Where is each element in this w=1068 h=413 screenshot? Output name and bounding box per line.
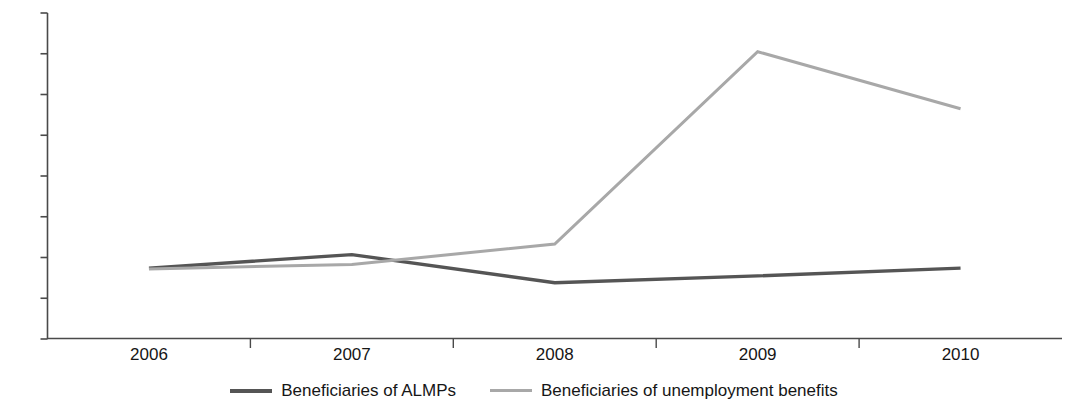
y-tick-label-text: 20 (0, 249, 8, 266)
line-chart-svg (0, 0, 1068, 360)
y-tick-label-text: 50 (0, 126, 8, 143)
series-line-almps (149, 255, 961, 283)
legend-swatch-almps (230, 389, 272, 393)
plot-area: 01020304050607080 (0, 0, 1068, 360)
y-tick-label-text: 10 (0, 289, 8, 306)
y-tick-label-text: 30 (0, 208, 8, 225)
x-tick-label: 2006 (89, 345, 209, 365)
y-tick-label-text: 40 (0, 167, 8, 184)
y-tick-label-text: 60 (0, 86, 8, 103)
y-tick-label-text: 70 (0, 45, 8, 62)
legend-item-unemployment-benefits: Beneficiaries of unemployment benefits (490, 381, 838, 400)
data-series-group (149, 52, 961, 283)
series-line-unemployment-benefits (149, 52, 961, 269)
legend-label-almps: Beneficiaries of ALMPs (281, 381, 456, 400)
x-tick-label: 2008 (495, 345, 615, 365)
chart-legend: Beneficiaries of ALMPs Beneficiaries of … (0, 381, 1068, 400)
axis-group (47, 13, 1062, 339)
x-tick-label: 2010 (901, 345, 1021, 365)
legend-swatch-unemployment-benefits (490, 389, 532, 392)
x-axis-tick-labels: 20062007200820092010 (0, 345, 1068, 373)
chart-figure: 01020304050607080 20062007200820092010 B… (0, 0, 1068, 413)
y-tick-label-text: 80 (0, 4, 8, 21)
y-tick-marks (41, 13, 48, 339)
legend-item-almps: Beneficiaries of ALMPs (230, 381, 456, 400)
x-tick-label: 2007 (292, 345, 412, 365)
legend-label-unemployment-benefits: Beneficiaries of unemployment benefits (541, 381, 838, 400)
x-tick-label: 2009 (698, 345, 818, 365)
